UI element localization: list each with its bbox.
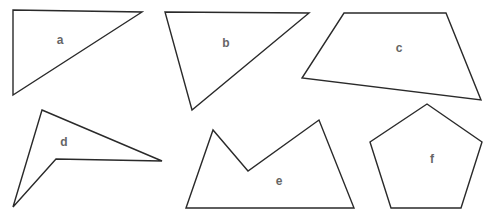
shape-d: d xyxy=(13,110,162,207)
shape-b: b xyxy=(165,12,309,110)
shape-a-label: a xyxy=(57,33,64,47)
shape-a: a xyxy=(13,10,142,95)
quadrilateral-c-outline xyxy=(302,13,481,100)
shape-e-label: e xyxy=(276,174,283,188)
concave-shape-e-outline xyxy=(186,120,354,208)
shapes-diagram: a b c d e f xyxy=(0,0,488,218)
concave-shape-d-outline xyxy=(13,110,162,207)
pentagon-f-outline xyxy=(370,104,482,208)
shape-f-label: f xyxy=(430,152,435,166)
shape-f: f xyxy=(370,104,482,208)
shape-c-label: c xyxy=(396,41,403,55)
triangle-a-outline xyxy=(13,10,142,95)
shape-d-label: d xyxy=(60,135,67,149)
shape-b-label: b xyxy=(222,36,229,50)
shape-c: c xyxy=(302,13,481,100)
shape-e: e xyxy=(186,120,354,208)
triangle-b-outline xyxy=(165,12,309,110)
